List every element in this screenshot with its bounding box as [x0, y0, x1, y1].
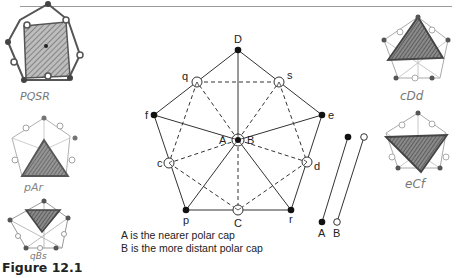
pole-A-bottom: [319, 219, 326, 226]
sketch-label-pqsr: PQSR: [20, 90, 50, 103]
svg-text:eCf: eCf: [405, 177, 427, 191]
label-q: q: [182, 70, 188, 82]
vertex-f: [151, 112, 158, 119]
label-c: c: [157, 157, 163, 169]
svg-text:q: q: [182, 70, 188, 82]
sketch-label-par: pAr: [23, 181, 45, 194]
sketch-qbs: qBs: [8, 199, 71, 262]
svg-text:r: r: [289, 213, 293, 225]
label-C: C: [234, 217, 242, 229]
main-pentagon-diagram: D q s f e c d p C r A B: [145, 33, 334, 229]
svg-text:B: B: [247, 134, 254, 146]
polar-axis-lines: A B: [318, 134, 367, 239]
pole-label-A: A: [318, 227, 326, 239]
pole-label-B: B: [333, 227, 340, 239]
svg-text:C: C: [234, 217, 242, 229]
pole-A-top: [345, 134, 352, 141]
sketch-label-cdd: cDd: [400, 89, 424, 103]
svg-text:D: D: [234, 33, 242, 45]
sketch-ecf: eCf: [386, 111, 449, 192]
legend: A is the nearer polar cap B is the more …: [121, 229, 263, 254]
figure-caption: Figure 12.1: [2, 260, 83, 275]
vertex-e: [319, 112, 326, 119]
label-A: A: [219, 134, 227, 146]
svg-text:pAr: pAr: [23, 181, 45, 194]
svg-text:f: f: [145, 109, 149, 121]
label-p: p: [183, 214, 189, 226]
sketch-cdd: cDd: [382, 15, 451, 104]
svg-text:cDd: cDd: [400, 89, 424, 103]
pole-B-bottom: [334, 219, 341, 226]
svg-text:c: c: [157, 157, 163, 169]
legend-item-b: B is the more distant polar cap: [121, 242, 263, 255]
legend-item-a: A is the nearer polar cap: [121, 229, 263, 242]
label-d: d: [314, 160, 320, 172]
vertex-p: [183, 207, 190, 214]
label-D: D: [234, 33, 242, 45]
label-s: s: [287, 69, 293, 81]
sketch-label-ecf: eCf: [405, 177, 427, 191]
sketch-par: pAr: [12, 116, 78, 195]
svg-text:B: B: [333, 227, 340, 239]
svg-text:s: s: [287, 69, 293, 81]
label-r: r: [289, 213, 293, 225]
svg-text:A: A: [318, 227, 326, 239]
vertex-D: [235, 47, 242, 54]
svg-text:p: p: [183, 214, 189, 226]
label-f: f: [145, 109, 149, 121]
vertex-A-center: [235, 137, 241, 143]
label-B: B: [247, 134, 254, 146]
label-e: e: [328, 109, 334, 121]
svg-text:PQSR: PQSR: [20, 90, 50, 103]
sketch-pqsr: PQSR: [5, 1, 83, 103]
pole-B-top: [361, 134, 368, 141]
svg-text:d: d: [314, 160, 320, 172]
svg-text:e: e: [328, 109, 334, 121]
svg-text:A: A: [219, 134, 227, 146]
